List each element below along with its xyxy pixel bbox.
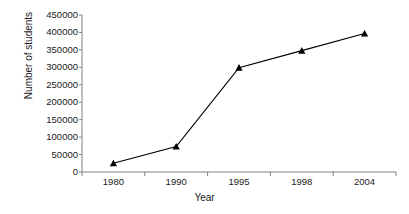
data-series-line — [113, 33, 364, 163]
x-axis-tick-label: 1995 — [228, 176, 249, 187]
axis-lines — [82, 15, 396, 172]
line-chart: Number of students 050000100000150000200… — [0, 0, 409, 214]
x-axis-tick-label: 1990 — [166, 176, 187, 187]
data-point-markers — [110, 30, 368, 166]
x-axis-tick-label: 1998 — [291, 176, 312, 187]
x-axis-title: Year — [0, 192, 409, 203]
plot-area — [0, 0, 409, 214]
data-point-marker — [361, 30, 368, 37]
x-axis-tick-label: 1980 — [103, 176, 124, 187]
x-axis-tick-label: 2004 — [354, 176, 375, 187]
